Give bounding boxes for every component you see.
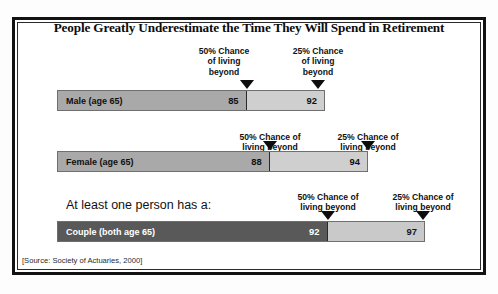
callout-row1-median-line1: 50% Chance <box>183 46 265 56</box>
bar-segment-upper-couple: 97 <box>328 222 424 241</box>
arrow-row1-median <box>240 80 254 89</box>
bar-value-median-couple: 92 <box>309 226 319 237</box>
bar-segment-median-female: Female (age 65) 88 <box>58 152 270 171</box>
callout-row1-upper: 25% Chance of living beyond <box>277 46 359 77</box>
bar-row-male: Male (age 65) 85 92 <box>57 90 325 111</box>
bar-value-upper-couple: 97 <box>407 226 417 237</box>
callout-row1-upper-line2: of living <box>277 56 359 66</box>
bar-row-couple: Couple (both age 65) 92 97 <box>57 221 425 242</box>
bar-label-male: Male (age 65) <box>66 96 123 106</box>
source-footnote: [Source: Society of Actuaries, 2000] <box>22 256 142 265</box>
callout-row3-upper-line1: 25% Chance of <box>375 192 471 202</box>
callout-row1-median-line3: beyond <box>183 67 265 77</box>
arrow-row1-upper <box>311 80 325 89</box>
group-heading-at-least-one: At least one person has a: <box>66 198 211 212</box>
callout-row1-upper-line1: 25% Chance <box>277 46 359 56</box>
arrow-row3-median <box>321 211 335 220</box>
callout-row1-median: 50% Chance of living beyond <box>183 46 265 77</box>
bar-value-median-female: 88 <box>251 156 261 167</box>
callout-row3-upper: 25% Chance of living beyond <box>375 192 471 213</box>
callout-row3-median-line1: 50% Chance of <box>280 192 376 202</box>
bar-value-median-male: 85 <box>228 95 238 106</box>
bar-label-female: Female (age 65) <box>66 157 134 167</box>
callout-row3-median: 50% Chance of living beyond <box>280 192 376 213</box>
bar-segment-upper-male: 92 <box>247 91 324 110</box>
bar-row-female: Female (age 65) 88 94 <box>57 151 368 172</box>
bar-segment-upper-female: 94 <box>270 152 367 171</box>
bar-value-upper-male: 92 <box>307 95 317 106</box>
arrow-row3-upper <box>416 211 430 220</box>
bar-value-upper-female: 94 <box>350 156 360 167</box>
bar-segment-median-couple: Couple (both age 65) 92 <box>58 222 328 241</box>
arrow-row2-median <box>263 141 277 150</box>
figure-root: People Greatly Underestimate the Time Th… <box>0 0 498 294</box>
bar-label-couple: Couple (both age 65) <box>66 227 155 237</box>
arrow-row2-upper <box>361 141 375 150</box>
figure-title: People Greatly Underestimate the Time Th… <box>0 20 498 36</box>
callout-row1-upper-line3: beyond <box>277 67 359 77</box>
bar-segment-median-male: Male (age 65) 85 <box>58 91 247 110</box>
callout-row1-median-line2: of living <box>183 56 265 66</box>
